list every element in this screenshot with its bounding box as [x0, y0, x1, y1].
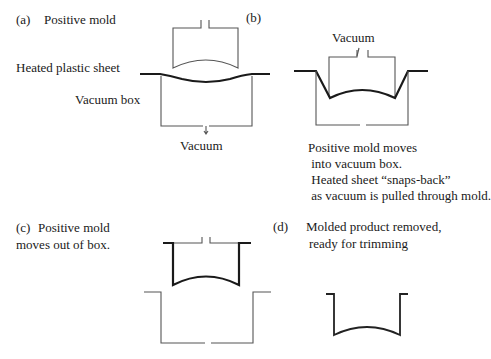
vacuum-label-a: Vacuum	[180, 138, 223, 153]
panel-d-tag: (d)	[273, 219, 288, 234]
panel-a-title: Positive mold	[44, 12, 116, 27]
panel-b-drawing	[294, 48, 428, 125]
panel-a-tag: (a)	[16, 12, 30, 27]
caption-line: Heated sheet “snaps-back”	[308, 172, 451, 187]
vacuum-arrow-a	[204, 126, 208, 134]
panel-d-drawing	[326, 294, 408, 335]
caption-line: Molded product removed,	[306, 219, 441, 234]
molded-product-d	[326, 294, 408, 335]
vacuum-box-c	[144, 292, 271, 343]
vacuum-box-a	[161, 76, 252, 126]
formed-part-on-mold-c	[163, 243, 251, 285]
caption-line: as vacuum is pulled through mold.	[308, 188, 491, 203]
caption-line: moves out of box.	[16, 237, 110, 252]
heated-sheet-a	[140, 74, 270, 82]
panel-c-tag: (c)	[16, 220, 30, 235]
caption-line: Positive mold	[38, 220, 110, 235]
caption-line: ready for trimming	[309, 236, 408, 251]
vacuum-box-label: Vacuum box	[75, 92, 140, 107]
caption-line: into vacuum box.	[308, 156, 402, 171]
panel-c-drawing	[144, 237, 271, 343]
heated-sheet-label: Heated plastic sheet	[16, 60, 120, 75]
positive-mold-a	[173, 20, 238, 68]
mold-nozzle-c	[163, 237, 251, 243]
panel-a-drawing	[140, 20, 270, 134]
panel-b-tag: (b)	[246, 10, 261, 25]
caption-line: Positive mold moves	[308, 140, 417, 155]
vacuum-label-b: Vacuum	[332, 30, 375, 45]
